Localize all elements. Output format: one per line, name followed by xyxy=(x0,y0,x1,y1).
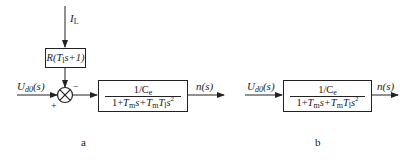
input-label-b-main: U xyxy=(247,80,255,92)
numerator-main-a: 1/C xyxy=(134,84,149,95)
feedback-prefix: R( xyxy=(47,52,57,63)
transfer-block-b: 1/Ce 1+Tms+TmTls2 xyxy=(283,80,372,112)
output-label-b: n(s) xyxy=(377,80,394,92)
feedback-block-expression: R(Tls+1) xyxy=(46,52,85,65)
input-label-a: Ud0(s) xyxy=(17,80,45,94)
numerator-main-b: 1/C xyxy=(318,84,333,95)
feedback-block: R(Tls+1) xyxy=(45,48,86,68)
feedback-suffix: s+1) xyxy=(65,52,85,63)
den-b-0: 1+ xyxy=(296,96,307,107)
disturbance-label-sub: L xyxy=(74,17,79,26)
input-label-b-sub: d0 xyxy=(255,85,263,94)
transfer-block-a: 1/Ce 1+Tms+TmTls2 xyxy=(98,80,188,112)
input-label-a-main: U xyxy=(17,80,25,92)
output-label-a: n(s) xyxy=(196,80,213,92)
den-b-3: s+ xyxy=(320,96,331,107)
caption-b: b xyxy=(315,136,321,148)
input-label-b-arg: (s) xyxy=(263,80,275,92)
caption-a: a xyxy=(81,136,86,148)
input-label-a-arg: (s) xyxy=(33,80,45,92)
transfer-denominator-b: 1+Tms+TmTls2 xyxy=(284,95,371,110)
disturbance-label: IL xyxy=(70,12,79,26)
input-label-b: Ud0(s) xyxy=(247,80,275,94)
den-b-9: 2 xyxy=(355,95,359,103)
transfer-denominator-a: 1+Tms+TmTls2 xyxy=(99,95,187,110)
den-a-3: s+ xyxy=(135,96,146,107)
input-label-a-sub: d0 xyxy=(25,85,33,94)
summing-junction xyxy=(58,88,73,103)
plus-sign: + xyxy=(51,100,57,111)
den-a-0: 1+ xyxy=(112,96,123,107)
minus-sign: − xyxy=(73,81,79,92)
den-a-9: 2 xyxy=(171,95,175,103)
